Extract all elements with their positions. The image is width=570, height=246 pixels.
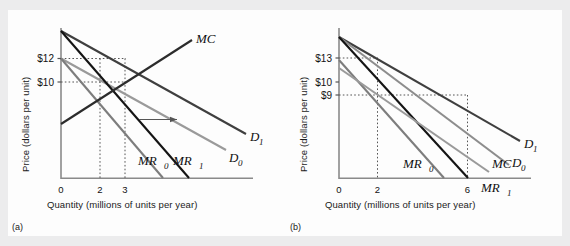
- panel-a-label-mc: MC: [195, 31, 216, 46]
- panel-a-label-d0-sub: 0: [238, 158, 243, 168]
- panel-b-xtick-2: 2: [375, 184, 380, 195]
- demand-shift-arrow: [139, 117, 177, 122]
- panel-b-price-tick-9: $9: [321, 90, 333, 101]
- panel-a-xtick-2: 2: [97, 184, 102, 195]
- panel-a-caption: (a): [12, 222, 23, 232]
- panel-b-label-mr0: MR: [402, 156, 422, 171]
- panel-b-xtick-6: 6: [465, 184, 470, 195]
- panel-a-xtick-3: 3: [122, 184, 127, 195]
- panel-a-x-axis-label: Quantity (millions of units per year): [47, 199, 197, 210]
- panel-a-price-tick-10: $10: [37, 77, 54, 88]
- panel-b-label-mr1-sub: 1: [507, 188, 512, 198]
- panel-b-curve-d0: [339, 37, 509, 165]
- panel-b-xtick-0: 0: [336, 184, 341, 195]
- panel-b-price-tick-10: $10: [315, 77, 332, 88]
- panel-b-label-d0-sub: 0: [521, 163, 526, 173]
- panel-b-caption: (b): [290, 222, 301, 232]
- panel-a-label-mr1-sub: 1: [199, 161, 204, 171]
- panel-b-label-mr0-sub: 0: [429, 164, 434, 174]
- panel-a-label-mr0-sub: 0: [164, 161, 169, 171]
- panel-a-label-d1-sub: 1: [259, 137, 264, 147]
- chart-panel-b: Price (dollars per unit) Quantity (milli…: [278, 0, 563, 246]
- chart-panel-a: Price (dollars per unit) Quantity (milli…: [0, 0, 285, 246]
- panel-a-plot: $12 $10 0 2 3 MC D 1 D 0 MR 0 MR 1: [0, 0, 285, 200]
- panel-a-label-mr1: MR: [172, 153, 192, 168]
- panel-a-price-tick-12: $12: [37, 53, 54, 64]
- panel-b-plot: $13 $10 $9 0 2 6 MR 0 MR 1 MC D 1 D 0: [278, 0, 563, 200]
- panel-b-label-d1-sub: 1: [533, 144, 538, 154]
- panel-b-x-axis-label: Quantity (millions of units per year): [325, 199, 475, 210]
- panel-a-xtick-0: 0: [58, 184, 63, 195]
- frame-band-right: [562, 0, 570, 246]
- panel-b-label-mr1: MR: [480, 180, 500, 195]
- panel-a-label-mr0: MR: [137, 153, 157, 168]
- figure-frame: Price (dollars per unit) Quantity (milli…: [0, 0, 570, 246]
- panel-b-label-mc: MC: [491, 156, 512, 171]
- panel-b-price-tick-13: $13: [315, 53, 332, 64]
